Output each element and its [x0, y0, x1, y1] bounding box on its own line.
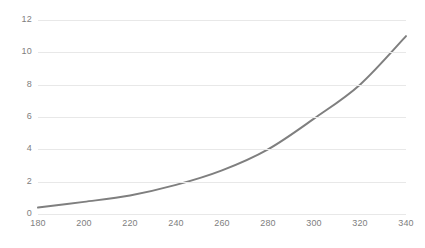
- x-tick-label: 220: [122, 219, 138, 228]
- gridline-y: [38, 182, 406, 183]
- y-tick-label: 10: [6, 47, 32, 56]
- x-tick-label: 340: [398, 219, 414, 228]
- plot-area: [38, 20, 406, 214]
- x-tick-label: 240: [168, 219, 184, 228]
- y-tick-label: 8: [6, 80, 32, 89]
- y-tick-label: 4: [6, 144, 32, 153]
- x-axis: 180200220240260280300320340: [38, 219, 406, 235]
- gridline-y: [38, 52, 406, 53]
- gridline-y: [38, 117, 406, 118]
- gridline-y: [38, 85, 406, 86]
- line-chart: 024681012 180200220240260280300320340: [0, 0, 425, 248]
- y-tick-label: 12: [6, 15, 32, 24]
- x-tick-label: 280: [260, 219, 276, 228]
- x-tick-label: 180: [30, 219, 46, 228]
- gridline-y: [38, 20, 406, 21]
- y-tick-label: 0: [6, 209, 32, 218]
- gridline-y: [38, 149, 406, 150]
- x-tick-label: 260: [214, 219, 230, 228]
- y-tick-label: 2: [6, 177, 32, 186]
- x-tick-label: 200: [76, 219, 92, 228]
- y-axis: 024681012: [0, 0, 32, 248]
- x-tick-label: 300: [306, 219, 322, 228]
- gridline-y: [38, 214, 406, 215]
- y-tick-label: 6: [6, 112, 32, 121]
- x-tick-label: 320: [352, 219, 368, 228]
